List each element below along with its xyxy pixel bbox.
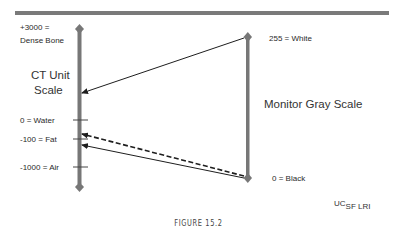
- top-rule: [15, 11, 389, 15]
- ct-scale-title-line2: Scale: [34, 83, 63, 98]
- arrow-black-to-ct-solid: [82, 145, 244, 178]
- ct-axis-bottom-diamond: [75, 182, 84, 192]
- black-label: 0 = Black: [272, 174, 305, 184]
- dense-bone-label-line2: Dense Bone: [20, 36, 64, 46]
- air-label: -1000 = Air: [20, 163, 59, 173]
- ct-scale-title-line1: CT Unit: [31, 68, 70, 83]
- arrow-black-to-ct-dashed: [82, 134, 244, 176]
- credit-sub: SF LRI: [346, 202, 371, 211]
- ct-axis-top-diamond: [75, 24, 84, 34]
- monitor-scale-title: Monitor Gray Scale: [264, 97, 362, 112]
- figure-caption: FIGURE 15.2: [44, 218, 354, 228]
- dense-bone-label-line1: +3000 =: [20, 23, 49, 33]
- water-label: 0 = Water: [20, 116, 55, 126]
- white-label: 255 = White: [269, 34, 312, 44]
- fat-label: -100 = Fat: [20, 135, 57, 145]
- ct-axis: [78, 30, 82, 184]
- monitor-axis: [246, 38, 250, 176]
- credit-label: UCSF LRI: [334, 199, 370, 211]
- credit-main: UC: [334, 199, 346, 208]
- monitor-axis-bottom-diamond: [244, 173, 253, 183]
- arrow-white-to-ct: [82, 38, 244, 93]
- monitor-axis-top-diamond: [244, 32, 253, 42]
